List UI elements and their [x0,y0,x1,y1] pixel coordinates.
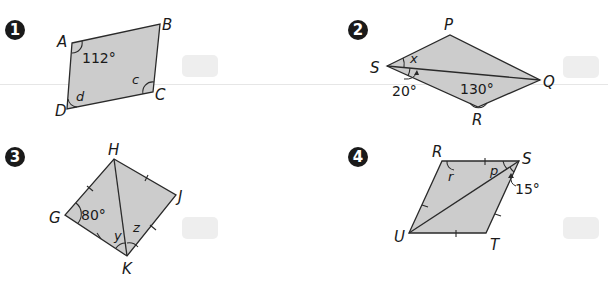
vertex-label-S: S [370,59,380,77]
vertex-label-Q: Q [543,73,555,91]
figure-3-rhombus: H J K G 80° y z [49,141,182,278]
tick-ST [495,214,501,216]
vertex-label-J: J [175,188,182,206]
vertex-label-T: T [490,236,501,254]
figure-4-rhombus: R S T U r p 15° [394,143,540,254]
vertex-label-P: P [444,16,454,34]
vertex-label-K: K [122,260,133,278]
vertex-label-R: R [472,111,482,129]
angle-label-130: 130° [460,81,494,97]
angle-var-x: x [409,51,418,66]
vertex-label-A: A [56,33,67,51]
vertex-label-G: G [49,209,61,227]
vertex-label-S: S [522,150,532,168]
vertex-label-H: H [108,141,119,159]
angle-var-p: p [489,163,498,178]
angle-var-y: y [113,228,122,243]
angle-var-z: z [132,220,141,235]
angle-label-112: 112° [82,50,116,66]
angle-var-c: c [132,72,139,87]
vertex-label-D: D [55,102,67,120]
vertex-label-B: B [162,16,172,34]
angle-label-20: 20° [392,83,417,99]
figure-1-parallelogram: A B C D 112° c d [55,16,172,120]
vertex-label-C: C [155,86,166,104]
tick-JK [150,225,156,230]
vertex-label-U: U [394,228,405,246]
angle-var-d: d [76,89,85,104]
figure-2-rhombus: P Q R S x 20° 130° [370,16,555,129]
angle-label-80: 80° [81,207,106,223]
diagram-canvas: A B C D 112° c d P Q R S x 20° 130° H [0,0,608,286]
vertex-label-R: R [432,143,442,161]
angle-label-15: 15° [515,181,540,197]
